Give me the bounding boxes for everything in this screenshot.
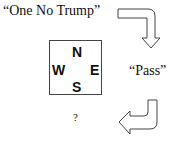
arrow-down-left-icon bbox=[119, 100, 157, 134]
arrows-layer bbox=[0, 0, 182, 151]
arrow-right-down-icon bbox=[118, 9, 160, 48]
